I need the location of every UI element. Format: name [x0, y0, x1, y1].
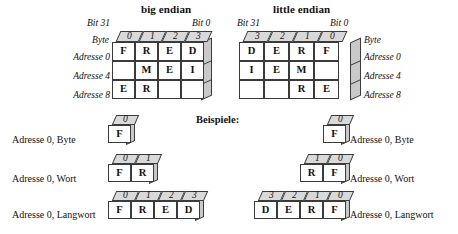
little-byte-label: Byte [364, 35, 381, 45]
little-example-byte-number-0: 0 [327, 115, 354, 125]
little-example-byte-cell-0: F [323, 125, 346, 143]
little-cell-r1-c0: I [239, 61, 264, 80]
big-byte-number-3: 3 [185, 31, 213, 42]
big-cell-r2-c1: R [135, 80, 158, 99]
little-cell-r0-c1: E [264, 42, 289, 61]
big-example-byte-number-0: 0 [112, 115, 139, 125]
big-cell-r1-c3: I [181, 61, 204, 80]
little-cell-r0-c0: D [239, 42, 264, 61]
little-bit0-label: Bit 0 [330, 18, 348, 28]
examples-heading: Beispiele: [196, 114, 239, 125]
little-example-langwort-cell-1: E [277, 201, 300, 219]
big-cell-r0-c1: R [135, 42, 158, 61]
big-row-label-1: Adresse 4 [40, 71, 110, 81]
little-bit31-label: Bit 31 [237, 18, 260, 28]
big-row-label-0: Adresse 0 [40, 52, 110, 62]
little-example-langwort-number-3: 0 [327, 191, 354, 201]
big-cell-r0-c0: F [112, 42, 135, 61]
big-example-wort-cell-1: R [131, 164, 154, 182]
little-example-label-langwort: Adresse 0, Langwort [350, 209, 434, 220]
little-example-langwort-cell-0: D [254, 201, 277, 219]
little-cell-r2-c3: E [314, 80, 339, 99]
little-row-label-2: Adresse 8 [364, 90, 401, 100]
little-cell-r0-c3: F [314, 42, 339, 61]
little-example-wort-cell-1: F [323, 164, 346, 182]
little-cell-r2-c0 [239, 80, 264, 99]
big-cell-r0-c3: D [181, 42, 204, 61]
big-example-wort-cell-0: F [108, 164, 131, 182]
big-cell-r1-c1: M [135, 61, 158, 80]
big-example-langwort-cell-3: D [177, 201, 200, 219]
big-example-langwort-cell-1: R [131, 201, 154, 219]
little-cell-r1-c1: E [264, 61, 289, 80]
big-cell-r2-c3 [181, 80, 204, 99]
big-example-label-byte: Adresse 0, Byte [12, 134, 76, 145]
little-cell-r1-c3 [314, 61, 339, 80]
big-example-label-langwort: Adresse 0, Langwort [12, 209, 96, 220]
big-example-label-wort: Adresse 0, Wort [12, 173, 76, 184]
title-little-endian: little endian [273, 3, 330, 15]
big-example-byte-cell-0: F [108, 125, 131, 143]
little-example-label-wort: Adresse 0, Wort [350, 173, 414, 184]
big-cell-r1-c2: E [158, 61, 181, 80]
big-row-label-2: Adresse 8 [40, 90, 110, 100]
title-big-endian: big endian [141, 3, 191, 15]
little-example-wort-number-1: 0 [327, 154, 354, 164]
little-cell-r2-c1 [264, 80, 289, 99]
big-example-wort-number-1: 1 [135, 154, 162, 164]
big-example-langwort-cell-2: E [154, 201, 177, 219]
little-table-side-face [350, 38, 361, 101]
little-cell-r1-c2: M [289, 61, 314, 80]
little-cell-r0-c2: R [289, 42, 314, 61]
little-example-langwort-cell-2: R [300, 201, 323, 219]
big-cell-r1-c0 [112, 61, 135, 80]
little-byte-number-3: 0 [318, 31, 348, 42]
little-example-label-byte: Adresse 0, Byte [350, 134, 414, 145]
little-row-label-1: Adresse 4 [364, 71, 401, 81]
big-byte-label: Byte [63, 35, 109, 45]
big-cell-r2-c2 [158, 80, 181, 99]
big-example-langwort-number-3: 3 [181, 191, 208, 201]
little-row-label-0: Adresse 0 [364, 52, 401, 62]
big-cell-r0-c2: E [158, 42, 181, 61]
big-cell-r2-c0: E [112, 80, 135, 99]
big-bit0-label: Bit 0 [192, 18, 210, 28]
big-bit31-label: Bit 31 [87, 18, 110, 28]
big-example-langwort-cell-0: F [108, 201, 131, 219]
little-cell-r2-c2: R [289, 80, 314, 99]
little-example-wort-cell-0: R [300, 164, 323, 182]
little-example-langwort-cell-3: F [323, 201, 346, 219]
